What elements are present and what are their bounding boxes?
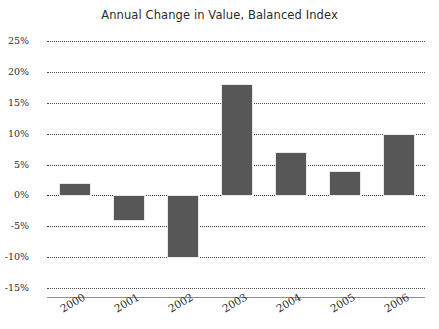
x-axis-tick-label: 2000 (58, 291, 87, 315)
x-axis-tick-labels: 2000200120022003200420052006 (47, 300, 425, 329)
gridline (47, 72, 425, 73)
x-axis-tick-label: 2003 (220, 291, 249, 315)
x-axis-tick-label: 2001 (112, 291, 141, 315)
y-axis-tick-label: 10% (0, 128, 29, 139)
y-axis-tick-label: 20% (0, 66, 29, 77)
gridline (47, 41, 425, 42)
y-axis-tick-label: 5% (0, 159, 29, 170)
y-axis-tick-label: 15% (0, 97, 29, 108)
y-axis-tick-label: 25% (0, 35, 29, 46)
bar (329, 171, 361, 197)
y-axis-tick-label: -10% (0, 251, 29, 262)
chart-title: Annual Change in Value, Balanced Index (0, 8, 439, 22)
bar (221, 84, 253, 196)
y-axis-tick-label: -15% (0, 282, 29, 293)
bar (275, 152, 307, 196)
bar-chart: Annual Change in Value, Balanced Index 2… (0, 0, 439, 329)
x-axis-tick-label: 2006 (382, 291, 411, 315)
y-axis-tick-label: 0% (0, 189, 29, 200)
bar (167, 195, 199, 258)
gridline (47, 226, 425, 227)
plot-area: 25%20%15%10%5%0%-5%-10%-15% (47, 41, 425, 288)
y-axis-tick-label: -5% (0, 220, 29, 231)
bar (383, 134, 415, 197)
gridline (47, 288, 425, 289)
gridline (47, 257, 425, 258)
bar (59, 183, 91, 196)
x-axis-tick-label: 2002 (166, 291, 195, 315)
x-axis-tick-label: 2004 (274, 291, 303, 315)
bar (113, 195, 145, 221)
x-axis-tick-label: 2005 (328, 291, 357, 315)
